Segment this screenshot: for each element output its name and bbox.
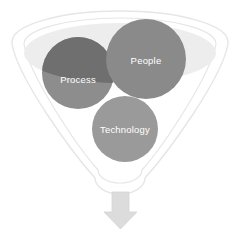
funnel-diagram: Process People Technology xyxy=(0,0,240,232)
down-arrow-shape xyxy=(104,192,137,229)
circle-people-base xyxy=(106,19,186,99)
circle-people[interactable]: People xyxy=(106,19,186,99)
circle-technology[interactable]: Technology xyxy=(92,96,158,162)
circle-technology-base xyxy=(92,96,158,162)
diagram-canvas: Process People Technology xyxy=(0,0,240,232)
down-arrow xyxy=(104,192,137,229)
circle-process[interactable]: Process xyxy=(42,37,114,109)
